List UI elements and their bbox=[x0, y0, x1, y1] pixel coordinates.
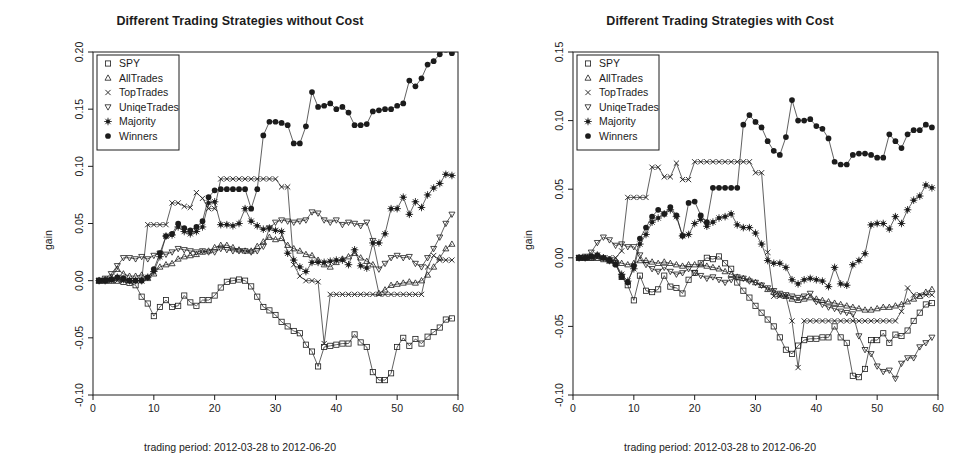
svg-text:UniqeTrades: UniqeTrades bbox=[599, 101, 659, 113]
svg-text:-0.10: -0.10 bbox=[553, 383, 565, 407]
svg-text:40: 40 bbox=[810, 402, 822, 414]
svg-text:-0.10: -0.10 bbox=[73, 383, 85, 407]
svg-text:0.00: 0.00 bbox=[73, 270, 85, 291]
svg-text:20: 20 bbox=[209, 402, 221, 414]
svg-text:0: 0 bbox=[90, 402, 96, 414]
svg-text:10: 10 bbox=[628, 402, 640, 414]
svg-text:Winners: Winners bbox=[119, 130, 158, 142]
svg-text:SPY: SPY bbox=[119, 57, 140, 69]
svg-text:Majority: Majority bbox=[599, 115, 637, 127]
svg-text:0: 0 bbox=[570, 402, 576, 414]
svg-text:60: 60 bbox=[932, 402, 944, 414]
svg-text:UniqeTrades: UniqeTrades bbox=[119, 101, 179, 113]
svg-text:20: 20 bbox=[689, 402, 701, 414]
svg-text:TopTrades: TopTrades bbox=[599, 86, 648, 98]
svg-text:TopTrades: TopTrades bbox=[119, 86, 168, 98]
plot-area-right: 0102030405060-0.10-0.050.000.050.100.15S… bbox=[480, 0, 960, 471]
svg-text:-0.05: -0.05 bbox=[553, 314, 565, 338]
svg-text:-0.05: -0.05 bbox=[73, 326, 85, 350]
trading-strategies-figure: Different Trading Strategies without Cos… bbox=[0, 0, 960, 471]
svg-text:0.15: 0.15 bbox=[553, 42, 565, 63]
svg-text:Winners: Winners bbox=[599, 130, 638, 142]
panel-without-cost: Different Trading Strategies without Cos… bbox=[0, 0, 480, 471]
svg-text:AllTrades: AllTrades bbox=[599, 72, 643, 84]
svg-text:0.10: 0.10 bbox=[73, 156, 85, 177]
svg-text:50: 50 bbox=[871, 402, 883, 414]
x-axis-caption-right: trading period: 2012-03-28 to 2012-06-20 bbox=[480, 441, 960, 453]
svg-text:0.15: 0.15 bbox=[73, 99, 85, 120]
svg-text:30: 30 bbox=[750, 402, 762, 414]
svg-text:Majority: Majority bbox=[119, 115, 157, 127]
svg-text:0.05: 0.05 bbox=[553, 179, 565, 200]
svg-text:0.00: 0.00 bbox=[553, 247, 565, 268]
svg-text:SPY: SPY bbox=[599, 57, 620, 69]
svg-text:AllTrades: AllTrades bbox=[119, 72, 163, 84]
plot-area-left: 0102030405060-0.10-0.050.000.050.100.150… bbox=[0, 0, 480, 471]
svg-text:10: 10 bbox=[148, 402, 160, 414]
svg-text:0.05: 0.05 bbox=[73, 213, 85, 234]
x-axis-caption-left: trading period: 2012-03-28 to 2012-06-20 bbox=[0, 441, 480, 453]
svg-text:50: 50 bbox=[391, 402, 403, 414]
panel-with-cost: Different Trading Strategies with Cost g… bbox=[480, 0, 960, 471]
svg-text:0.10: 0.10 bbox=[553, 110, 565, 131]
svg-text:60: 60 bbox=[452, 402, 464, 414]
svg-text:30: 30 bbox=[270, 402, 282, 414]
svg-text:40: 40 bbox=[330, 402, 342, 414]
svg-text:0.20: 0.20 bbox=[73, 42, 85, 63]
